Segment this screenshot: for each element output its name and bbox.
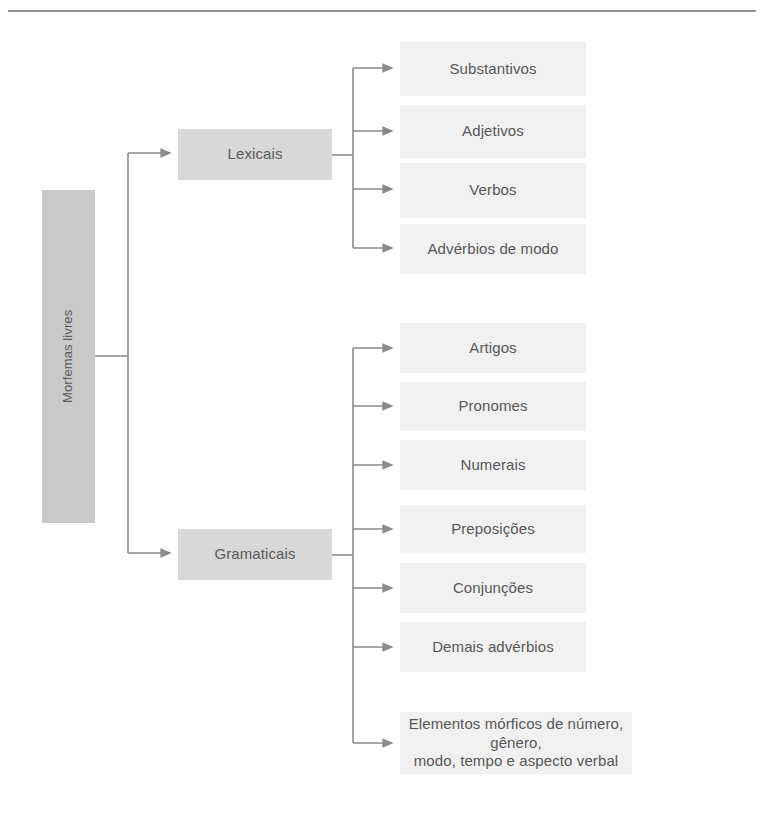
node-label-demais-adverbios: Demais advérbios bbox=[432, 638, 554, 657]
node-label-morfemas-livres: Morfemas livres bbox=[60, 310, 76, 403]
node-label-adverbios-de-modo: Advérbios de modo bbox=[428, 240, 559, 259]
node-label-verbos: Verbos bbox=[469, 181, 516, 200]
node-label-pronomes: Pronomes bbox=[458, 397, 527, 416]
node-artigos[interactable]: Artigos bbox=[400, 323, 586, 373]
node-pronomes[interactable]: Pronomes bbox=[400, 382, 586, 431]
node-conjuncoes[interactable]: Conjunções bbox=[400, 563, 586, 613]
node-verbos[interactable]: Verbos bbox=[400, 163, 586, 218]
node-gramaticais[interactable]: Gramaticais bbox=[178, 529, 332, 580]
node-numerais[interactable]: Numerais bbox=[400, 440, 586, 490]
connector-lines bbox=[0, 0, 765, 815]
header-rule bbox=[8, 10, 756, 12]
node-demais-adverbios[interactable]: Demais advérbios bbox=[400, 622, 586, 672]
node-adjetivos[interactable]: Adjetivos bbox=[400, 105, 586, 158]
diagram-canvas: Morfemas livres Lexicais Gramaticais Sub… bbox=[0, 0, 765, 815]
node-lexicais[interactable]: Lexicais bbox=[178, 129, 332, 180]
node-substantivos[interactable]: Substantivos bbox=[400, 42, 586, 96]
node-label-gramaticais: Gramaticais bbox=[214, 545, 295, 564]
node-morfemas-livres[interactable]: Morfemas livres bbox=[42, 190, 95, 523]
node-label-conjuncoes: Conjunções bbox=[453, 579, 533, 598]
node-label-preposicoes: Preposições bbox=[451, 520, 535, 539]
node-label-lexicais: Lexicais bbox=[228, 145, 283, 164]
node-label-adjetivos: Adjetivos bbox=[462, 122, 524, 141]
node-label-substantivos: Substantivos bbox=[449, 60, 536, 79]
node-preposicoes[interactable]: Preposições bbox=[400, 505, 586, 553]
node-elementos-morficos[interactable]: Elementos mórficos de número, gênero, mo… bbox=[400, 712, 632, 774]
node-label-elementos-morficos: Elementos mórficos de número, gênero, mo… bbox=[408, 715, 624, 771]
node-label-numerais: Numerais bbox=[461, 456, 526, 475]
node-adverbios-de-modo[interactable]: Advérbios de modo bbox=[400, 224, 586, 274]
node-label-artigos: Artigos bbox=[469, 339, 516, 358]
